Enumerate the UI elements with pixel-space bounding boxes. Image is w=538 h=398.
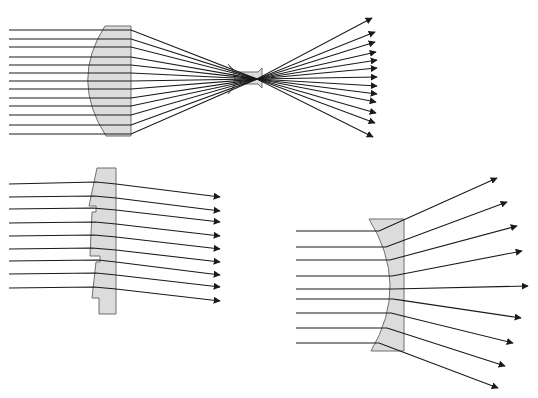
lens-ray-diagram-canvas (0, 0, 538, 398)
fresnel-lens (89, 168, 116, 314)
diverging-rays (296, 178, 528, 388)
plano-concave-lens (369, 219, 404, 351)
diverging-lens-panel (296, 178, 528, 388)
optics-diagram (0, 0, 538, 398)
converging-lens-panel (9, 18, 377, 137)
fresnel-lens-panel (9, 168, 220, 314)
refracted-ray (99, 79, 375, 125)
diverging-ray (296, 178, 497, 231)
refracted-ray (104, 18, 372, 79)
converging-rays (9, 18, 377, 137)
diverging-ray (296, 286, 528, 289)
diverging-ray (296, 299, 521, 318)
diverging-ray (296, 343, 498, 388)
